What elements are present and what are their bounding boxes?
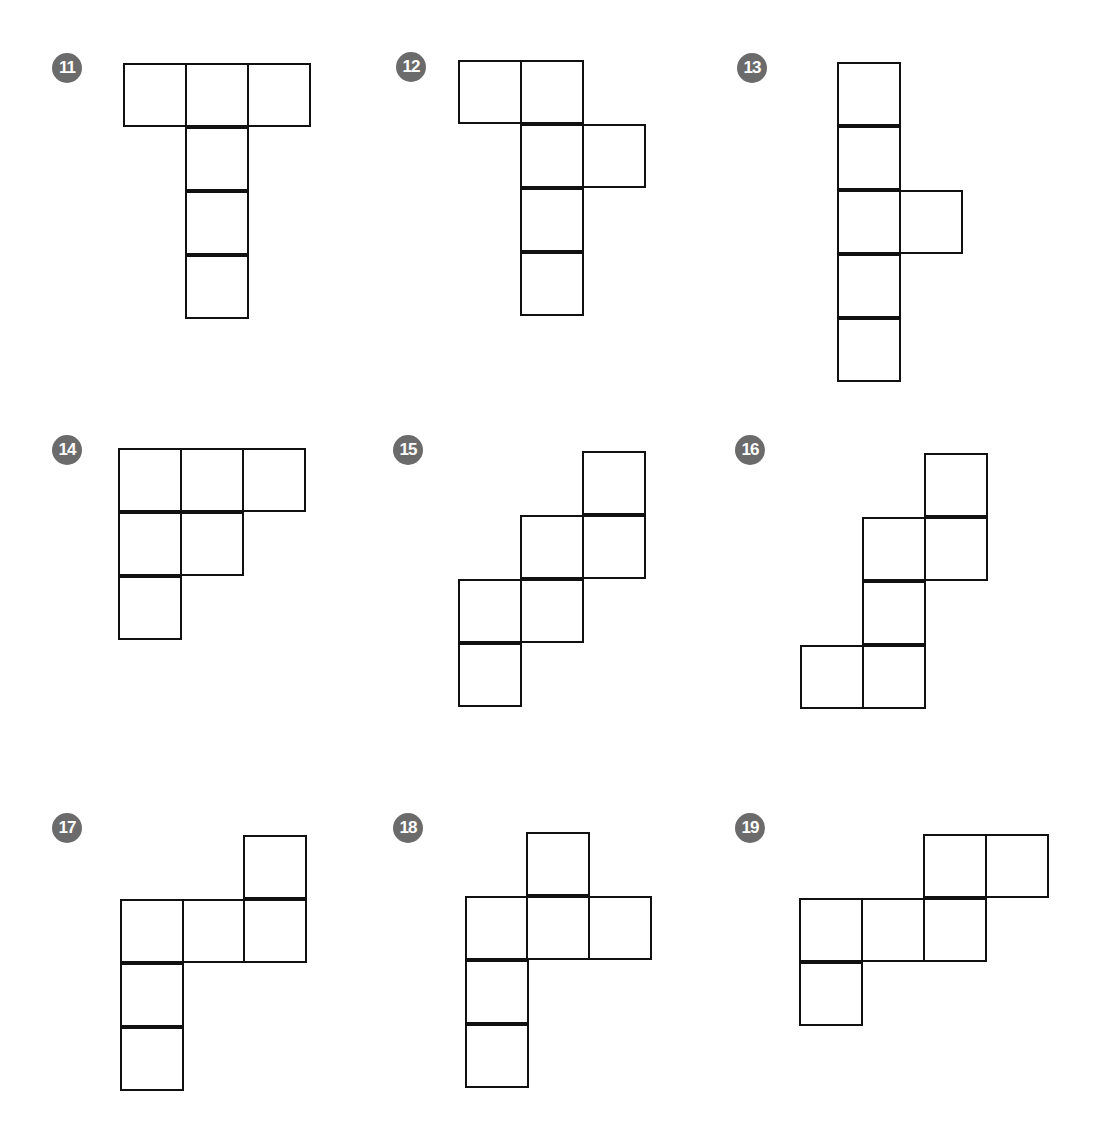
net-square	[182, 899, 246, 963]
net-square	[243, 899, 307, 963]
net-square	[862, 581, 926, 645]
net-square	[582, 124, 646, 188]
net-square	[520, 515, 584, 579]
net-square	[582, 515, 646, 579]
net-square	[582, 451, 646, 515]
net-square	[243, 835, 307, 899]
net-square	[185, 127, 249, 191]
net-square	[458, 60, 522, 124]
net-square	[242, 448, 306, 512]
net-square	[837, 126, 901, 190]
net-square	[185, 63, 249, 127]
net-square	[458, 643, 522, 707]
net-square	[526, 832, 590, 896]
net-square	[799, 962, 863, 1026]
net-number-badge: 17	[52, 813, 82, 843]
net-number-badge: 19	[735, 813, 765, 843]
net-square	[837, 254, 901, 318]
net-square	[120, 899, 184, 963]
net-square	[185, 191, 249, 255]
net-square	[837, 190, 901, 254]
net-square	[520, 252, 584, 316]
net-square	[458, 579, 522, 643]
net-square	[120, 1027, 184, 1091]
net-square	[985, 834, 1049, 898]
net-square	[520, 579, 584, 643]
net-number-badge: 18	[393, 813, 423, 843]
net-number-badge: 11	[52, 53, 82, 83]
net-number-badge: 12	[396, 52, 426, 82]
net-square	[118, 448, 182, 512]
net-square	[118, 576, 182, 640]
net-square	[800, 645, 864, 709]
net-square	[899, 190, 963, 254]
net-square	[924, 517, 988, 581]
net-number-badge: 14	[52, 435, 82, 465]
net-number-badge: 13	[737, 53, 767, 83]
net-square	[180, 448, 244, 512]
net-square	[924, 453, 988, 517]
net-square	[120, 963, 184, 1027]
net-square	[520, 188, 584, 252]
net-square	[862, 517, 926, 581]
net-square	[588, 896, 652, 960]
net-square	[180, 512, 244, 576]
net-square	[520, 124, 584, 188]
net-square	[923, 898, 987, 962]
net-number-badge: 16	[735, 435, 765, 465]
net-square	[247, 63, 311, 127]
net-square	[799, 898, 863, 962]
net-square	[520, 60, 584, 124]
net-square	[837, 62, 901, 126]
net-square	[923, 834, 987, 898]
net-square	[862, 645, 926, 709]
net-square	[465, 896, 529, 960]
net-square	[465, 1024, 529, 1088]
net-square	[861, 898, 925, 962]
net-square	[185, 255, 249, 319]
net-square	[465, 960, 529, 1024]
net-square	[123, 63, 187, 127]
net-square	[526, 896, 590, 960]
net-square	[837, 318, 901, 382]
net-square	[118, 512, 182, 576]
net-number-badge: 15	[393, 435, 423, 465]
